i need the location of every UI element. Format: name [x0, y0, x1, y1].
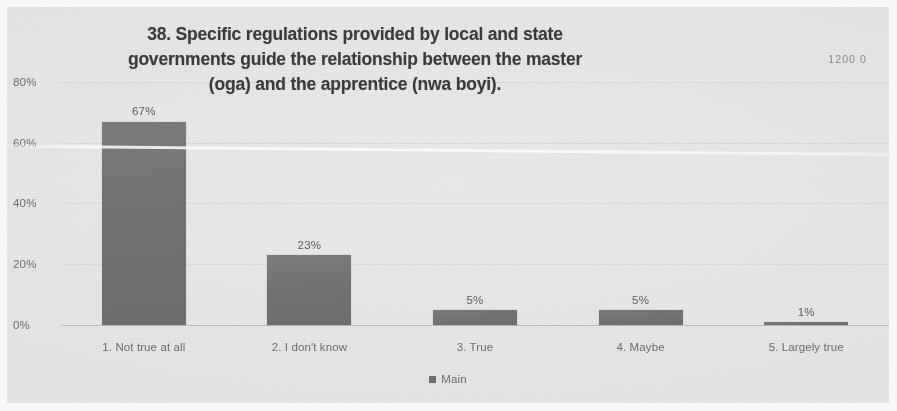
- x-axis-category-label: 4. Maybe: [617, 341, 665, 353]
- chart-title-line-2: governments guide the relationship betwe…: [25, 47, 685, 72]
- x-axis-category-label: 2. I don't know: [272, 341, 347, 353]
- x-axis-category-label: 3. True: [457, 341, 494, 353]
- bar[interactable]: [102, 122, 186, 326]
- chart-title-line-3: (oga) and the apprentice (nwa boyi).: [25, 72, 685, 97]
- bar-value-label: 23%: [298, 239, 322, 251]
- y-axis-tick-label: 20%: [13, 258, 59, 270]
- paper-edge-right: [889, 0, 897, 411]
- bar[interactable]: [599, 310, 683, 325]
- bar-value-label: 5%: [466, 294, 483, 306]
- chart-title: 38. Specific regulations provided by loc…: [25, 22, 685, 97]
- x-axis-category-label: 1. Not true at all: [102, 341, 185, 353]
- bar[interactable]: [764, 322, 848, 325]
- bar-value-label: 1%: [798, 306, 815, 318]
- chart-title-line-1: 38. Specific regulations provided by loc…: [25, 22, 685, 47]
- bar-value-label: 67%: [132, 105, 156, 117]
- bar-value-label: 5%: [632, 294, 649, 306]
- corner-stamp: 1200 0: [828, 53, 867, 65]
- square-marker-icon: [429, 376, 436, 383]
- y-axis-tick-label: 40%: [13, 197, 59, 209]
- bar-group: 1% 5. Largely true: [723, 7, 889, 403]
- bar[interactable]: [433, 310, 517, 325]
- y-axis-tick-label: 60%: [13, 137, 59, 149]
- legend-item-label: Main: [441, 373, 467, 385]
- bar[interactable]: [267, 255, 351, 325]
- chart-figure: 38. Specific regulations provided by loc…: [7, 7, 889, 403]
- paper-edge-bottom: [0, 403, 897, 411]
- paper-edge-left: [0, 0, 7, 411]
- paper-edge-top: [0, 0, 897, 7]
- y-axis-tick-label: 0%: [13, 319, 59, 331]
- scanned-chart-image: 38. Specific regulations provided by loc…: [0, 0, 897, 411]
- x-axis-category-label: 5. Largely true: [769, 341, 844, 353]
- chart-legend: Main: [7, 373, 889, 385]
